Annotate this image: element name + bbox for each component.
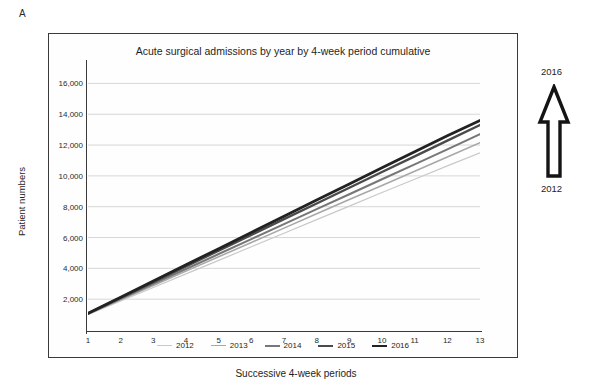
chart-title: Acute surgical admissions by year by 4-w… [48, 45, 518, 57]
legend: 20122013201420152016 [48, 341, 518, 350]
y-tick-label: 8,000 [63, 202, 83, 211]
y-tick-label: 12,000 [59, 141, 83, 150]
series-line-2012 [88, 153, 480, 315]
series-line-2014 [88, 134, 480, 314]
series-line-2013 [88, 143, 480, 314]
trend-annotation: 2016 2012 [527, 66, 587, 77]
y-tick-label: 10,000 [59, 171, 83, 180]
y-tick-label: 14,000 [59, 110, 83, 119]
y-tick-label: 2,000 [63, 295, 83, 304]
up-arrow-icon [537, 84, 571, 184]
legend-item-2014[interactable]: 2014 [265, 341, 302, 350]
legend-swatch-2012 [157, 345, 172, 346]
legend-item-2012[interactable]: 2012 [157, 341, 194, 350]
legend-label-2012: 2012 [176, 341, 194, 350]
legend-label-2016: 2016 [391, 341, 409, 350]
legend-item-2016[interactable]: 2016 [372, 341, 409, 350]
legend-swatch-2014 [265, 345, 280, 347]
legend-swatch-2015 [318, 345, 333, 347]
legend-label-2014: 2014 [284, 341, 302, 350]
legend-swatch-2016 [372, 345, 387, 347]
y-tick-label: 16,000 [59, 79, 83, 88]
series-line-2016 [88, 120, 480, 313]
gridlines [88, 83, 480, 299]
up-arrow-outline-svg [537, 84, 571, 180]
x-axis-title: Successive 4-week periods [0, 368, 592, 379]
y-tick-label: 6,000 [63, 233, 83, 242]
series-lines [88, 120, 480, 314]
legend-item-2013[interactable]: 2013 [211, 341, 248, 350]
legend-swatch-2013 [211, 345, 226, 346]
annotation-bottom-year: 2012 [541, 183, 562, 194]
y-tick-label: 4,000 [63, 264, 83, 273]
panel-label: A [19, 8, 26, 19]
legend-label-2015: 2015 [337, 341, 355, 350]
figure-panel: A Acute surgical admissions by year by 4… [0, 0, 592, 388]
legend-item-2015[interactable]: 2015 [318, 341, 355, 350]
annotation-top-year: 2016 [527, 66, 587, 77]
y-axis-title: Patient numbers [16, 147, 27, 257]
series-svg [88, 68, 480, 330]
plot-area: 2,0004,0006,0008,00010,00012,00014,00016… [88, 68, 480, 330]
x-axis-line [86, 331, 482, 332]
legend-label-2013: 2013 [230, 341, 248, 350]
